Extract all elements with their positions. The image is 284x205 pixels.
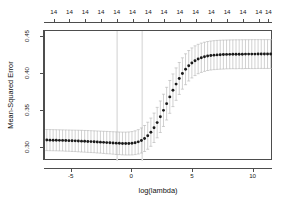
top-axis-tickmark	[85, 19, 86, 22]
top-axis-tickmark	[268, 19, 269, 22]
chart-figure: 141414141414141414141414141414 -50510 0.…	[0, 0, 284, 205]
top-axis-tick-label: 14	[50, 9, 57, 15]
y-axis-line	[43, 30, 44, 160]
top-axis-tickmark	[133, 19, 134, 22]
top-axis-tickmark	[243, 19, 244, 22]
top-axis-tick-label: 14	[224, 9, 231, 15]
x-axis-tickmark	[253, 169, 254, 172]
x-axis-tickmark	[71, 169, 72, 172]
y-axis-tick-label: 0.40	[24, 67, 30, 79]
top-axis-tick-label: 14	[113, 9, 120, 15]
x-axis-tickmark	[192, 169, 193, 172]
y-axis-tick-label: 0.35	[24, 104, 30, 116]
x-axis-title: log(lambda)	[138, 186, 177, 195]
top-axis-tickmark	[117, 19, 118, 22]
top-axis-tick-label: 14	[176, 9, 183, 15]
top-axis-tickmark	[69, 19, 70, 22]
x-axis-tick-label: -5	[68, 173, 74, 179]
y-axis-title: Mean-Squared Error	[6, 61, 15, 128]
top-axis-tickmark	[196, 19, 197, 22]
top-axis-tickmark	[148, 19, 149, 22]
top-axis-tick-label: 14	[98, 9, 105, 15]
top-axis-line	[44, 22, 272, 23]
top-axis-tickmark	[164, 19, 165, 22]
top-axis-tickmark	[211, 19, 212, 22]
x-axis-tickmark	[131, 169, 132, 172]
top-axis-tick-label: 14	[265, 9, 272, 15]
y-axis-tick-label: 0.30	[24, 141, 30, 153]
x-axis-tick-label: 0	[130, 173, 133, 179]
plot-svg	[45, 31, 273, 161]
x-axis-tick-label: 5	[190, 173, 193, 179]
top-axis-tickmark	[54, 19, 55, 22]
top-axis-tick-label: 14	[82, 9, 89, 15]
top-axis-tickmark	[259, 19, 260, 22]
top-axis-tick-label: 14	[192, 9, 199, 15]
top-axis-tickmark	[227, 19, 228, 22]
top-axis-tick-label: 14	[145, 9, 152, 15]
top-axis-tick-label: 14	[208, 9, 215, 15]
plot-area	[44, 30, 272, 160]
top-axis-tick-label: 14	[66, 9, 73, 15]
top-axis-tick-label: 14	[255, 9, 262, 15]
top-axis-tick-label: 14	[161, 9, 168, 15]
x-axis-line	[44, 168, 272, 169]
y-axis-tick-label: 0.45	[24, 30, 30, 42]
top-axis-tickmark	[101, 19, 102, 22]
top-axis-tick-label: 14	[129, 9, 136, 15]
x-axis-tick-label: 10	[249, 173, 256, 179]
top-axis-tick-label: 14	[239, 9, 246, 15]
top-axis-tickmark	[180, 19, 181, 22]
